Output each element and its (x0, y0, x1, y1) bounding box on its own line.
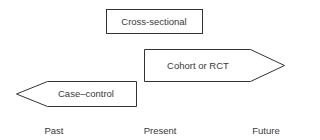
timeline-past: Past (44, 125, 63, 136)
case-control-label: Case–control (58, 88, 114, 99)
timeline-future: Future (252, 125, 279, 136)
cohort-label: Cohort or RCT (167, 60, 229, 71)
timeline-present: Present (144, 125, 177, 136)
cross-sectional-label: Cross-sectional (121, 16, 186, 27)
